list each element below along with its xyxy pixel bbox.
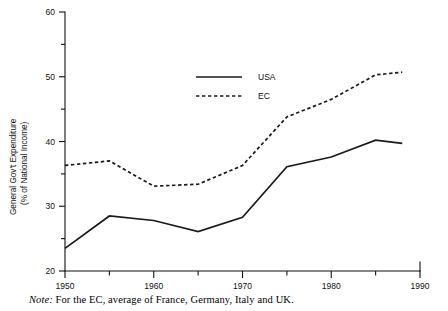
y-axis-ticks: [59, 12, 65, 271]
y-tick-label: 60: [46, 7, 56, 17]
y-axis-title-line1: General Gov't Expenditure: [9, 118, 18, 215]
y-tick-label: 30: [46, 201, 56, 211]
x-tick-label: 1980: [322, 281, 341, 291]
x-axis-ticks: [65, 271, 420, 278]
y-axis-title: General Gov't Expenditure (% of National…: [9, 118, 29, 215]
x-axis-tick-labels: 19501960197019801990: [56, 281, 430, 291]
chart-series: [65, 72, 402, 248]
legend-label-usa: USA: [258, 72, 276, 82]
y-tick-label: 40: [46, 137, 56, 147]
series-line-ec: [65, 72, 402, 186]
series-line-usa: [65, 140, 402, 248]
y-tick-label: 50: [46, 72, 56, 82]
chart-legend: USA EC: [196, 72, 276, 101]
x-tick-label: 1960: [144, 281, 163, 291]
chart-axes: [65, 12, 420, 271]
line-chart: 2030405060 19501960197019801990 General …: [0, 0, 448, 311]
x-tick-label: 1990: [411, 281, 430, 291]
y-tick-label: 20: [46, 266, 56, 276]
y-axis-title-line2: (% of National Income): [20, 121, 29, 205]
chart-figure: 2030405060 19501960197019801990 General …: [0, 0, 448, 311]
note-lead: Note:: [29, 294, 53, 305]
x-tick-label: 1950: [56, 281, 75, 291]
note-text: For the EC, average of France, Germany, …: [56, 294, 294, 305]
legend-label-ec: EC: [258, 91, 270, 101]
y-axis-tick-labels: 2030405060: [46, 7, 56, 276]
chart-note: Note: For the EC, average of France, Ger…: [29, 294, 294, 305]
x-tick-label: 1970: [233, 281, 252, 291]
